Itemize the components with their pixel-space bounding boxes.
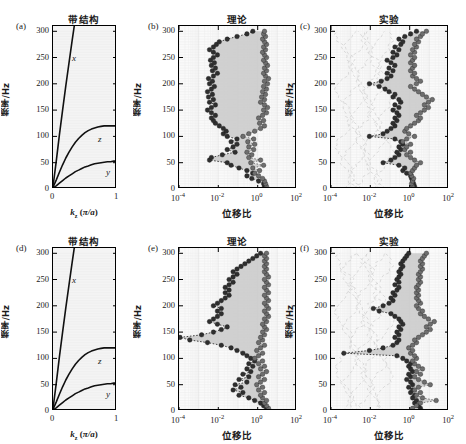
y-tick-label: 50 xyxy=(303,157,327,167)
band-curve-label-x: x xyxy=(72,275,76,285)
y-tick-label: 200 xyxy=(303,300,327,310)
panel-title-d: 带结构 xyxy=(52,234,116,248)
panel-title-c: 实验 xyxy=(330,12,448,26)
y-tick-label: 50 xyxy=(25,379,49,389)
y-tick-label: 200 xyxy=(151,300,175,310)
y-axis-label: 频率/Hz xyxy=(0,305,12,338)
y-tick-label: 150 xyxy=(151,326,175,336)
x-tick-label: 0 xyxy=(50,413,54,423)
y-tick-label: 250 xyxy=(151,274,175,284)
x-axis-label: kz (π/a) xyxy=(52,429,116,441)
y-tick-label: 300 xyxy=(25,25,49,35)
x-tick-label: 102 xyxy=(290,413,302,425)
y-tick-label: 200 xyxy=(25,300,49,310)
y-tick-label: 300 xyxy=(25,247,49,257)
panel-c: (c)实验050100150200250300频率/Hz10-410-21001… xyxy=(330,25,448,188)
y-tick-label: 250 xyxy=(303,52,327,62)
y-tick-label: 100 xyxy=(303,352,327,362)
y-tick-label: 100 xyxy=(151,352,175,362)
plot-area-b xyxy=(178,25,296,188)
y-axis-label: 频率/Hz xyxy=(0,83,12,116)
plot-area-a: xzy xyxy=(52,25,116,188)
y-axis-label: 频率/Hz xyxy=(284,83,296,116)
y-tick-label: 300 xyxy=(151,247,175,257)
y-axis-label: 频率/Hz xyxy=(132,305,144,338)
y-tick-label: 200 xyxy=(151,78,175,88)
panel-a: (a)带结构xzy050100150200250300频率/Hz01kz (π/… xyxy=(52,25,116,188)
x-tick-label: 1 xyxy=(114,191,118,201)
plot-area-c xyxy=(330,25,448,188)
x-tick-label: 10-2 xyxy=(362,413,376,425)
panel-b: (b)理论050100150200250300频率/Hz10-410-21001… xyxy=(178,25,296,188)
x-tick-label: 10-4 xyxy=(171,413,185,425)
x-axis-label: 位移比 xyxy=(330,428,448,442)
y-tick-label: 150 xyxy=(25,104,49,114)
x-axis-label: 位移比 xyxy=(330,206,448,220)
band-curve-label-x: x xyxy=(72,53,76,63)
x-tick-label: 100 xyxy=(403,413,415,425)
x-tick-label: 10-2 xyxy=(362,191,376,203)
plot-area-e xyxy=(178,247,296,410)
y-tick-label: 50 xyxy=(151,379,175,389)
band-curve-label-y: y xyxy=(106,167,110,177)
x-tick-label: 10-2 xyxy=(210,191,224,203)
y-tick-label: 150 xyxy=(303,104,327,114)
y-tick-label: 150 xyxy=(25,326,49,336)
y-tick-label: 100 xyxy=(25,352,49,362)
x-axis-label: kz (π/a) xyxy=(52,207,116,219)
band-curve-label-z: z xyxy=(98,134,102,144)
y-axis-label: 频率/Hz xyxy=(132,83,144,116)
y-tick-label: 200 xyxy=(303,78,327,88)
x-tick-label: 10-4 xyxy=(323,191,337,203)
figure-root: (a)带结构xzy050100150200250300频率/Hz01kz (π/… xyxy=(0,0,466,444)
x-axis-label: 位移比 xyxy=(178,206,296,220)
panel-f: (f)实验050100150200250300频率/Hz10-410-21001… xyxy=(330,247,448,410)
plot-area-f xyxy=(330,247,448,410)
x-tick-label: 102 xyxy=(290,191,302,203)
y-tick-label: 300 xyxy=(151,25,175,35)
y-tick-label: 200 xyxy=(25,78,49,88)
panel-d: (d)带结构xzy050100150200250300频率/Hz01kz (π/… xyxy=(52,247,116,410)
y-tick-label: 50 xyxy=(25,157,49,167)
plot-area-d: xzy xyxy=(52,247,116,410)
x-axis-label: 位移比 xyxy=(178,428,296,442)
y-tick-label: 250 xyxy=(151,52,175,62)
x-tick-label: 0 xyxy=(50,191,54,201)
y-tick-label: 100 xyxy=(303,130,327,140)
y-tick-label: 100 xyxy=(25,130,49,140)
y-tick-label: 50 xyxy=(303,379,327,389)
x-tick-label: 102 xyxy=(442,191,454,203)
x-tick-label: 102 xyxy=(442,413,454,425)
band-curve-label-y: y xyxy=(106,389,110,399)
panel-title-a: 带结构 xyxy=(52,12,116,26)
x-tick-label: 100 xyxy=(251,191,263,203)
x-tick-label: 10-2 xyxy=(210,413,224,425)
y-axis-label: 频率/Hz xyxy=(284,305,296,338)
band-curve-label-z: z xyxy=(98,356,102,366)
y-tick-label: 300 xyxy=(303,25,327,35)
y-tick-label: 300 xyxy=(303,247,327,257)
x-tick-label: 100 xyxy=(251,413,263,425)
panel-title-e: 理论 xyxy=(178,234,296,248)
y-tick-label: 250 xyxy=(25,52,49,62)
y-tick-label: 150 xyxy=(151,104,175,114)
y-tick-label: 150 xyxy=(303,326,327,336)
y-tick-label: 0 xyxy=(25,183,49,193)
y-tick-label: 0 xyxy=(25,405,49,415)
panel-e: (e)理论050100150200250300频率/Hz10-410-21001… xyxy=(178,247,296,410)
x-tick-label: 10-4 xyxy=(171,191,185,203)
y-tick-label: 100 xyxy=(151,130,175,140)
x-tick-label: 1 xyxy=(114,413,118,423)
panel-title-f: 实验 xyxy=(330,234,448,248)
x-tick-label: 100 xyxy=(403,191,415,203)
y-tick-label: 250 xyxy=(25,274,49,284)
panel-title-b: 理论 xyxy=(178,12,296,26)
y-tick-label: 50 xyxy=(151,157,175,167)
y-tick-label: 250 xyxy=(303,274,327,284)
x-tick-label: 10-4 xyxy=(323,413,337,425)
